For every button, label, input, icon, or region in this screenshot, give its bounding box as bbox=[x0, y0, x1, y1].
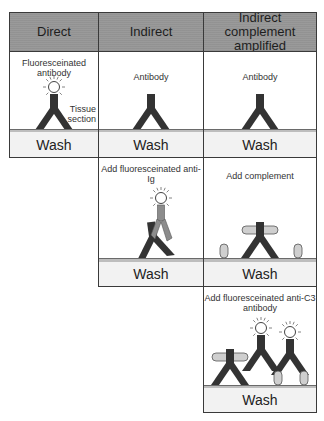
indirect-wash-2: Wash bbox=[98, 262, 204, 287]
complement-bound-icon bbox=[230, 353, 231, 354]
indirect-step1-panel: Antibody bbox=[98, 51, 204, 133]
wash-text: Wash bbox=[242, 137, 277, 153]
complement-step1-panel: Antibody bbox=[203, 51, 317, 133]
fluorescein-sun-icon bbox=[290, 332, 291, 333]
complement-step3-label: Add fluoresceinated anti-C3 antibody bbox=[204, 293, 316, 313]
direct-step1-panel: Fluoresceinated antibody Tissue section bbox=[9, 51, 99, 133]
wash-text: Wash bbox=[133, 266, 168, 282]
complement-free-icon bbox=[298, 244, 299, 245]
fluorescein-sun-icon bbox=[54, 87, 55, 88]
complement-step2-label: Add complement bbox=[204, 171, 316, 181]
tissue-section-label: Tissue section bbox=[56, 104, 96, 124]
complement-wash-3: Wash bbox=[203, 388, 317, 413]
indirect-step2-panel: Add fluoresceinated anti-Ig bbox=[98, 157, 204, 263]
fluorescein-sun-icon bbox=[161, 198, 162, 199]
header-indirect-text: Indirect bbox=[130, 25, 173, 39]
complement-free-icon bbox=[304, 371, 305, 372]
header-complement-text: Indirect complement amplified bbox=[208, 11, 312, 53]
complement-step1-label: Antibody bbox=[204, 72, 316, 82]
antibody-icon bbox=[151, 94, 152, 95]
complement-free-icon bbox=[278, 371, 279, 372]
column-header-indirect: Indirect bbox=[98, 12, 204, 52]
anti-c3-antibody-icon bbox=[261, 335, 262, 336]
column-header-direct: Direct bbox=[9, 12, 99, 52]
direct-step1-label: Fluoresceinated antibody bbox=[10, 58, 98, 78]
antibody-icon bbox=[151, 222, 152, 223]
indirect-wash-1: Wash bbox=[98, 132, 204, 158]
complement-wash-1: Wash bbox=[203, 132, 317, 158]
wash-text: Wash bbox=[242, 392, 277, 408]
complement-step2-panel: Add complement bbox=[203, 157, 317, 263]
direct-wash-1: Wash bbox=[9, 132, 99, 158]
antibody-icon bbox=[54, 94, 55, 95]
wash-text: Wash bbox=[133, 137, 168, 153]
complement-free-icon bbox=[224, 244, 225, 245]
anti-c3-antibody-icon bbox=[290, 339, 291, 340]
indirect-step1-label: Antibody bbox=[99, 72, 203, 82]
indirect-step2-label: Add fluoresceinated anti-Ig bbox=[99, 164, 203, 184]
complement-step3-panel: Add fluoresceinated anti-C3 antibody bbox=[203, 286, 317, 390]
column-header-complement: Indirect complement amplified bbox=[203, 12, 317, 52]
header-direct-text: Direct bbox=[37, 25, 71, 39]
wash-text: Wash bbox=[242, 266, 277, 282]
antibody-icon bbox=[260, 94, 261, 95]
anti-ig-antibody-icon bbox=[161, 205, 162, 206]
complement-wash-2: Wash bbox=[203, 262, 317, 287]
complement-bound-icon bbox=[260, 226, 261, 227]
fluorescein-sun-icon bbox=[261, 328, 262, 329]
wash-text: Wash bbox=[36, 137, 71, 153]
